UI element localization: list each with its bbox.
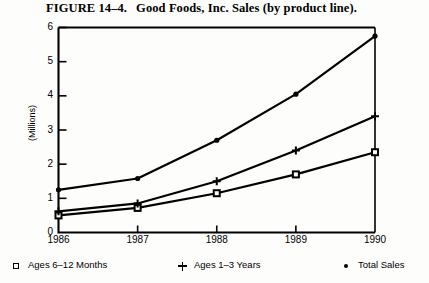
y-axis-tick-label: 4: [39, 89, 53, 100]
y-axis-tick-label: 1: [39, 192, 53, 203]
open-square-marker-icon: [293, 171, 299, 177]
legend-label: Ages 1–3 Years: [194, 258, 261, 272]
open-square-marker-icon: [12, 260, 22, 270]
x-axis-tick-label: 1988: [193, 234, 241, 245]
axis-frame: [59, 28, 376, 233]
plus-marker-icon: [178, 260, 188, 270]
filled-dot-marker-icon: [135, 176, 140, 181]
y-axis-tick-label: 3: [39, 124, 53, 135]
x-axis-tick-label: 1990: [351, 234, 399, 245]
x-axis-tick-label: 1987: [114, 234, 162, 245]
y-axis-tick-label: 6: [39, 21, 53, 32]
filled-dot-marker-icon: [56, 187, 61, 192]
filled-dot-marker-icon: [293, 92, 298, 97]
legend-label: Total Sales: [358, 258, 404, 272]
open-square-marker-icon: [372, 149, 378, 155]
chart-legend: Ages 6–12 Months Ages 1–3 Years Total Sa…: [0, 258, 429, 276]
x-axis-tick-label: 1989: [272, 234, 320, 245]
plus-marker-icon: [371, 112, 379, 120]
plus-marker-icon: [213, 177, 221, 185]
legend-item-ages-1-3-years: Ages 1–3 Years: [178, 258, 261, 272]
y-axis-title: (Millions): [27, 73, 37, 173]
filled-dot-marker-icon: [372, 33, 377, 38]
filled-dot-marker-icon: [214, 138, 219, 143]
plus-marker-icon: [292, 147, 300, 155]
y-axis-tick-label: 5: [39, 55, 53, 66]
open-square-marker-icon: [214, 190, 220, 196]
legend-label: Ages 6–12 Months: [28, 258, 107, 272]
x-axis-tick-label: 1986: [35, 234, 83, 245]
filled-dot-marker-icon: [342, 260, 352, 270]
legend-item-ages-6-12-months: Ages 6–12 Months: [12, 258, 107, 272]
legend-item-total-sales: Total Sales: [342, 258, 404, 272]
series-line: [59, 36, 376, 190]
figure-container: FIGURE 14–4.Good Foods, Inc. Sales (by p…: [0, 0, 429, 283]
y-axis-tick-label: 2: [39, 158, 53, 169]
